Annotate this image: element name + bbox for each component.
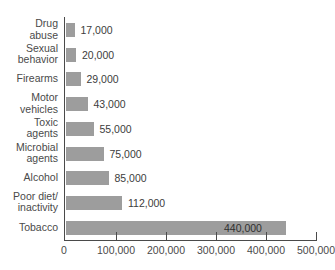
x-axis-tick-label: 100,000 (97, 244, 135, 257)
bar-row: Poor diet/ inactivity112,000 (0, 191, 332, 216)
bar (66, 171, 109, 185)
bar-value-label: 440,000 (224, 221, 262, 235)
x-axis-tick-label: 400,000 (247, 244, 285, 257)
category-label: Tobacco (0, 216, 58, 234)
category-label: Sexual behavior (0, 43, 58, 66)
x-axis-tick (266, 232, 267, 240)
x-axis-tick-label: 0 (61, 244, 67, 257)
x-axis-tick-label: 200,000 (147, 244, 185, 257)
x-axis-tick (116, 232, 117, 240)
category-label: Drug abuse (0, 18, 58, 41)
bar (66, 23, 75, 37)
bar-value-label: 29,000 (87, 72, 119, 86)
bar-row: Sexual behavior20,000 (0, 43, 332, 68)
bar-row: Microbial agents75,000 (0, 142, 332, 167)
bar-row: Drug abuse17,000 (0, 18, 332, 43)
x-axis-tick (216, 232, 217, 240)
bar-value-label: 85,000 (115, 171, 147, 185)
x-axis-tick (166, 232, 167, 240)
bar-value-label: 20,000 (82, 48, 114, 62)
bar-value-label: 17,000 (81, 23, 113, 37)
bar-value-label: 55,000 (100, 122, 132, 136)
bar (66, 147, 104, 161)
category-label: Motor vehicles (0, 92, 58, 115)
bar-value-label: 75,000 (110, 147, 142, 161)
x-axis-tick-label: 300,000 (197, 244, 235, 257)
bar (66, 72, 81, 86)
category-label: Firearms (0, 67, 58, 85)
x-axis-tick (64, 232, 65, 240)
x-axis-tick-label: 500,000 (297, 244, 335, 257)
category-label: Poor diet/ inactivity (0, 191, 58, 214)
bar-row: Motor vehicles43,000 (0, 92, 332, 117)
bar (66, 122, 94, 136)
bar-value-label: 43,000 (94, 97, 126, 111)
category-label: Microbial agents (0, 142, 58, 165)
bar (66, 48, 76, 62)
bar-row: Alcohol85,000 (0, 166, 332, 191)
bar-value-label: 112,000 (128, 196, 165, 210)
bar (66, 196, 122, 210)
x-axis-tick (316, 232, 317, 240)
category-label: Toxic agents (0, 117, 58, 140)
bar-row: Toxic agents55,000 (0, 117, 332, 142)
bar-row: Firearms29,000 (0, 67, 332, 92)
category-label: Alcohol (0, 166, 58, 184)
bar (66, 97, 88, 111)
